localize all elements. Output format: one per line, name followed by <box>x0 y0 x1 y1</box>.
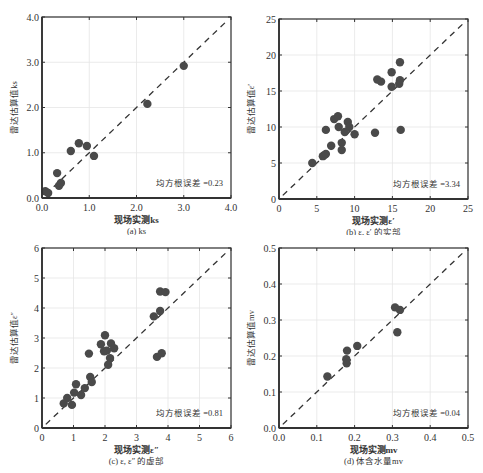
x-tick-label: 0.3 <box>386 432 399 443</box>
y-tick-label: 0.0 <box>264 423 277 434</box>
data-point <box>342 359 350 367</box>
plot-d: 0.00.10.20.30.40.50.00.10.20.30.40.5均方根误… <box>246 243 474 467</box>
y-tick-label: 0.5 <box>264 243 277 254</box>
chart-caption: (d) 体含水量mv <box>344 456 404 466</box>
x-axis-label: 现场实测mv <box>350 444 398 455</box>
y-tick-label: 0.2 <box>264 351 277 362</box>
data-point <box>323 372 331 380</box>
y-tick-label: 0.1 <box>264 387 277 398</box>
data-point <box>393 328 401 336</box>
data-point <box>353 342 361 350</box>
x-tick-label: 0.2 <box>348 432 361 443</box>
rmse-annotation: 均方根误差 =0.04 <box>393 408 461 418</box>
data-point <box>343 346 351 354</box>
y-tick-label: 0.3 <box>264 315 277 326</box>
chart-panel-d: 0.00.10.20.30.40.50.00.10.20.30.40.5均方根误… <box>0 0 483 473</box>
y-axis-label: 雷达估算值mv <box>246 309 256 366</box>
x-tick-label: 0.5 <box>462 432 475 443</box>
data-point <box>396 306 404 314</box>
x-tick-label: 0.0 <box>273 432 286 443</box>
reference-line <box>283 252 464 425</box>
x-tick-label: 0.1 <box>311 432 324 443</box>
x-tick-label: 0.4 <box>424 432 437 443</box>
scatter-chart-d: 0.00.10.20.30.40.50.00.10.20.30.40.5均方根误… <box>0 0 483 473</box>
y-tick-label: 0.4 <box>264 279 277 290</box>
